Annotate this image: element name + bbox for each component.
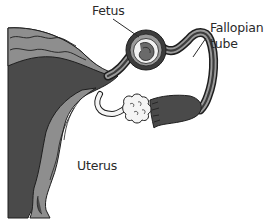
uterus-label: Uterus: [77, 158, 117, 173]
fetus-embryo: [139, 42, 154, 60]
fallopian-tube-leader-line: [193, 38, 206, 57]
fetus-label: Fetus: [92, 3, 125, 18]
fallopian-tube-label-line1: Fallopian: [210, 20, 264, 35]
fimbriae: [150, 95, 201, 128]
fallopian-tube-label-line2: tube: [210, 36, 238, 51]
ovary: [123, 94, 151, 123]
tubal-bulge: [126, 30, 166, 70]
fetus-leader-line: [113, 19, 139, 37]
uterus: [8, 28, 118, 218]
